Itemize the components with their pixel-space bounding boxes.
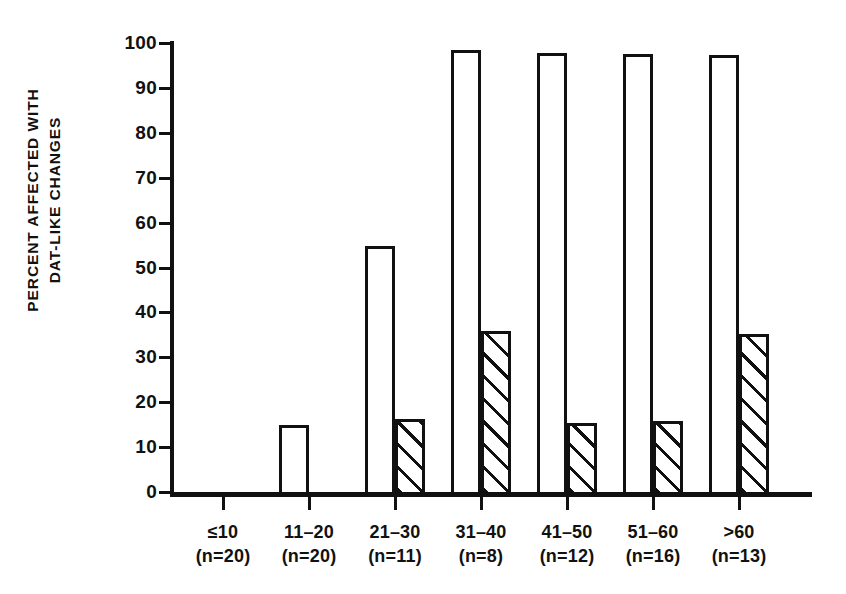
y-axis-tick — [159, 401, 170, 404]
y-axis-tick — [159, 267, 170, 270]
x-axis-category-name: >60 — [684, 520, 794, 544]
y-axis-tick — [159, 132, 170, 135]
x-axis-tick — [308, 497, 311, 510]
x-axis-category-label: >60(n=13) — [684, 520, 794, 569]
bar-open — [365, 246, 395, 495]
bar-hatched — [567, 423, 597, 495]
y-axis-tick — [159, 491, 170, 494]
y-axis-tick — [159, 177, 170, 180]
y-axis-title-line-2: DAT-LIKE CHANGES — [44, 40, 66, 360]
bar-open — [537, 53, 567, 495]
x-axis-tick — [222, 497, 225, 510]
chart-figure: PERCENT AFFECTED WITH DAT-LIKE CHANGES 0… — [0, 0, 846, 594]
x-axis-tick — [480, 497, 483, 510]
y-axis-tick — [159, 356, 170, 359]
y-axis-tick — [159, 446, 170, 449]
y-axis-tick-label: 30 — [95, 347, 157, 366]
y-axis-line — [170, 41, 174, 494]
y-axis-tick-label: 80 — [95, 123, 157, 142]
y-axis-tick — [159, 311, 170, 314]
y-axis-tick-label: 60 — [95, 213, 157, 232]
x-axis-tick — [738, 497, 741, 510]
y-axis-tick — [159, 87, 170, 90]
y-axis-tick — [159, 222, 170, 225]
y-axis-tick-label: 100 — [95, 33, 157, 52]
y-axis-tick-label: 20 — [95, 392, 157, 411]
y-axis-tick-label: 0 — [95, 482, 157, 501]
y-axis-title: PERCENT AFFECTED WITH DAT-LIKE CHANGES — [22, 40, 82, 360]
bar-open — [279, 425, 309, 495]
x-axis-category-count: (n=13) — [684, 544, 794, 568]
y-axis-tick — [159, 42, 170, 45]
y-axis-tick-label: 10 — [95, 437, 157, 456]
bar-hatched — [653, 421, 683, 495]
y-axis-tick-label: 90 — [95, 78, 157, 97]
y-axis-title-line-1: PERCENT AFFECTED WITH — [22, 40, 44, 360]
x-axis-tick — [652, 497, 655, 510]
x-axis-tick — [566, 497, 569, 510]
y-axis-tick-label: 70 — [95, 168, 157, 187]
bar-hatched — [395, 419, 425, 495]
bar-open — [709, 55, 739, 495]
bar-open — [623, 54, 653, 495]
bar-open — [451, 50, 481, 495]
y-axis-tick-label: 50 — [95, 258, 157, 277]
y-axis-tick-label: 40 — [95, 302, 157, 321]
bar-hatched — [481, 331, 511, 495]
x-axis-tick — [394, 497, 397, 510]
bar-hatched — [739, 334, 769, 495]
